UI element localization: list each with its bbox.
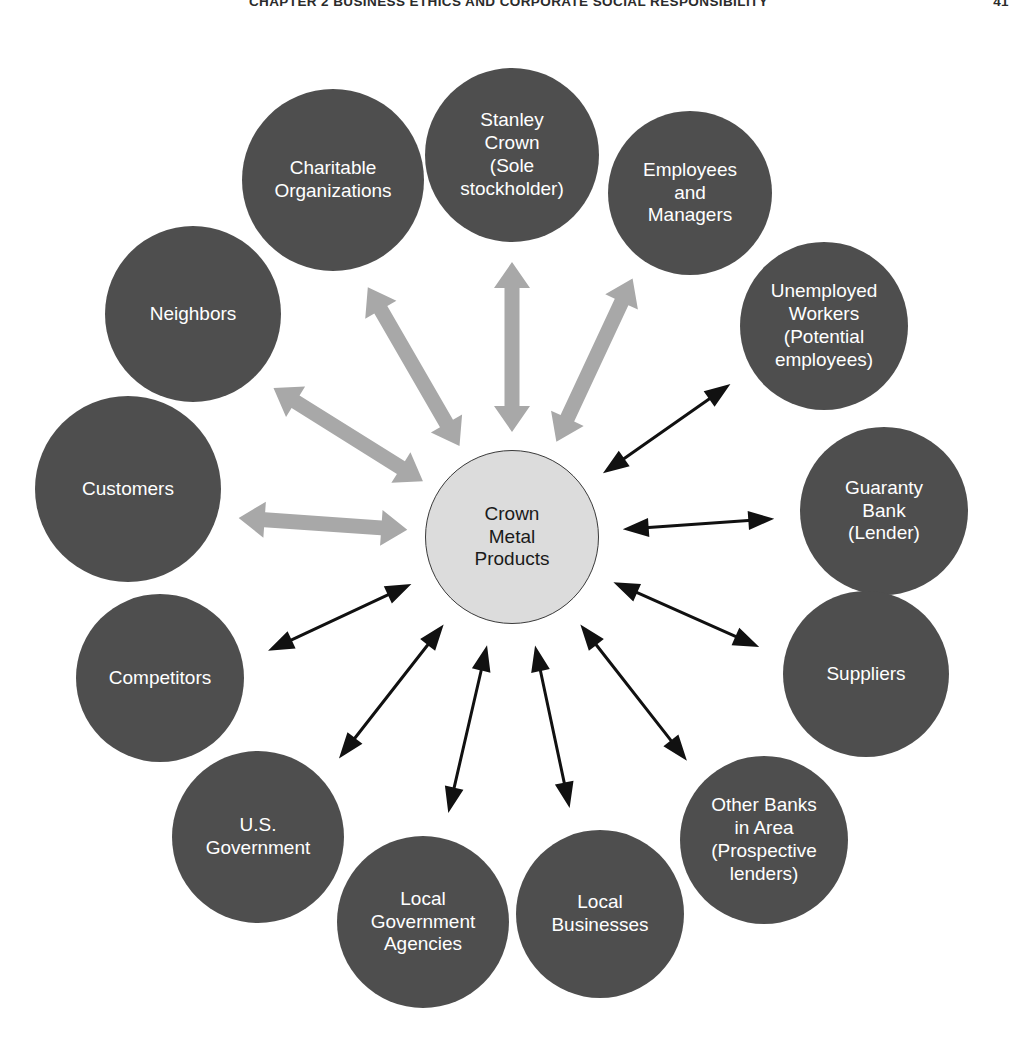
- stakeholder-neighbors-label: Neighbors: [146, 303, 241, 326]
- connector-arrow: [445, 645, 491, 813]
- connector-arrow: [494, 262, 530, 432]
- stakeholder-stanley-crown: Stanley Crown (Sole stockholder): [425, 68, 599, 242]
- stakeholder-local-businesses-label: Local Businesses: [547, 891, 652, 937]
- stakeholder-unemployed-workers: Unemployed Workers (Potential employees): [740, 242, 908, 410]
- connector-arrow: [623, 511, 775, 537]
- connector-arrow: [531, 646, 573, 809]
- connector-arrow: [613, 582, 759, 647]
- connector-arrow: [239, 502, 408, 546]
- stakeholder-us-government: U.S. Government: [172, 751, 344, 923]
- stakeholder-us-government-label: U.S. Government: [202, 814, 315, 860]
- stakeholder-guaranty-bank: Guaranty Bank (Lender): [800, 427, 968, 595]
- stakeholder-unemployed-workers-label: Unemployed Workers (Potential employees): [767, 280, 882, 371]
- stakeholder-customers-label: Customers: [78, 478, 178, 501]
- stakeholder-guaranty-bank-label: Guaranty Bank (Lender): [841, 477, 927, 545]
- stakeholder-suppliers: Suppliers: [783, 591, 949, 757]
- stakeholder-suppliers-label: Suppliers: [822, 663, 909, 686]
- stakeholder-competitors: Competitors: [76, 594, 244, 762]
- connector-arrow: [268, 584, 411, 651]
- stakeholder-employees-and-managers-label: Employees and Managers: [639, 159, 741, 227]
- stakeholder-employees-and-managers: Employees and Managers: [608, 111, 772, 275]
- stakeholder-local-government-agencies: Local Government Agencies: [337, 836, 509, 1008]
- stakeholder-other-banks-in-area: Other Banks in Area (Prospective lenders…: [680, 756, 848, 924]
- stakeholder-local-government-agencies-label: Local Government Agencies: [367, 888, 480, 956]
- stakeholder-local-businesses: Local Businesses: [516, 830, 684, 998]
- stakeholder-diagram: Stanley Crown (Sole stockholder)Employee…: [0, 0, 1017, 1058]
- connector-arrow: [274, 386, 423, 482]
- connector-arrow: [339, 624, 444, 758]
- connector-arrow: [365, 287, 462, 446]
- connector-arrow: [551, 278, 638, 441]
- stakeholder-competitors-label: Competitors: [105, 667, 215, 690]
- connector-arrow: [580, 624, 687, 760]
- center-node-crown-metal-products: Crown Metal Products: [425, 450, 599, 624]
- center-node-crown-metal-products-label: Crown Metal Products: [471, 503, 554, 571]
- stakeholder-other-banks-in-area-label: Other Banks in Area (Prospective lenders…: [707, 794, 821, 885]
- diagram-page: CHAPTER 2 BUSINESS ETHICS AND CORPORATE …: [0, 0, 1017, 1058]
- stakeholder-charitable-organizations-label: Charitable Organizations: [270, 157, 395, 203]
- connector-arrow: [603, 384, 731, 473]
- stakeholder-neighbors: Neighbors: [105, 226, 281, 402]
- stakeholder-charitable-organizations: Charitable Organizations: [242, 89, 424, 271]
- stakeholder-customers: Customers: [35, 396, 221, 582]
- stakeholder-stanley-crown-label: Stanley Crown (Sole stockholder): [456, 109, 568, 200]
